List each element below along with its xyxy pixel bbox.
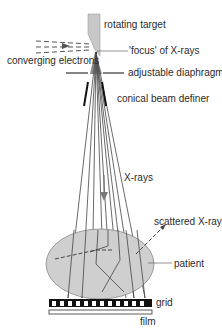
label-grid: grid bbox=[156, 297, 173, 308]
label-xrays: X-rays bbox=[124, 172, 153, 183]
label-conical-beam-definer: conical beam definer bbox=[117, 93, 209, 104]
label-adjustable-diaphragm: adjustable diaphragm bbox=[128, 67, 222, 78]
label-scattered-xray: scattered X-ray bbox=[154, 216, 222, 227]
conical-beam-definer-left bbox=[84, 82, 88, 106]
label-patient: patient bbox=[174, 258, 204, 269]
rotating-target bbox=[88, 14, 100, 56]
label-focus: 'focus' of X-rays bbox=[129, 45, 200, 56]
film bbox=[49, 310, 152, 314]
electron-arrowhead bbox=[62, 43, 70, 49]
label-film: film bbox=[140, 316, 156, 327]
label-rotating-target: rotating target bbox=[104, 19, 166, 30]
label-converging-electrons: converging electrons bbox=[7, 55, 99, 66]
